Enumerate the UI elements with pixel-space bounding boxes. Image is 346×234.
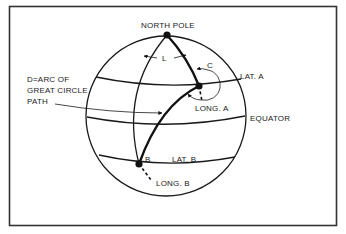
longitude-a-meridian	[167, 35, 199, 86]
equator-label: EQUATOR	[250, 114, 290, 123]
point-a	[195, 82, 202, 89]
latitude-b-line	[99, 155, 235, 163]
d-label-line3: PATH	[27, 97, 48, 106]
great-circle-diagram: NORTH POLE L C LAT. A LONG. A EQUATOR B …	[0, 0, 346, 234]
north-pole-point	[163, 31, 170, 38]
long-b-label: LONG. B	[156, 179, 190, 188]
angle-l-label: L	[162, 54, 167, 63]
d-leader-line	[55, 104, 162, 113]
long-a-label: LONG. A	[195, 104, 229, 113]
point-b	[135, 160, 142, 167]
d-label-line2: GREAT CIRCLE	[27, 86, 88, 95]
latitude-a-line	[96, 77, 241, 85]
great-circle-path	[139, 86, 199, 164]
north-pole-label: NORTH POLE	[141, 21, 195, 30]
point-b-label: B	[145, 155, 151, 164]
angle-c-label: C	[207, 61, 213, 70]
d-label-line1: D=ARC OF	[27, 75, 69, 84]
lat-b-label: LAT. B	[172, 155, 196, 164]
equator-line	[87, 116, 245, 124]
angle-c-arc-lower	[188, 94, 202, 100]
lat-a-label: LAT. A	[240, 72, 264, 81]
